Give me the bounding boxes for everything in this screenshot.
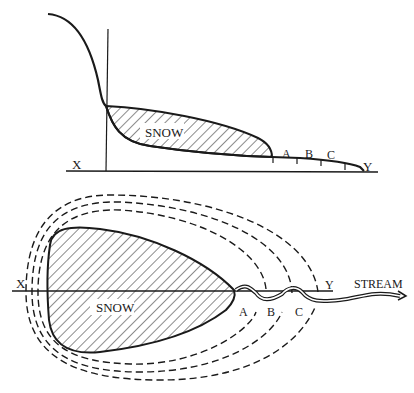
plan-view: SNOW X Y A B C STREAM [12, 195, 406, 380]
section-wall-line [106, 29, 108, 171]
snow-patch-plan [48, 227, 235, 352]
snow-label-plan: SNOW [96, 300, 135, 315]
snow-label: SNOW [145, 125, 184, 140]
label-x-plan: X [16, 276, 26, 291]
section-view: SNOW X Y A B C [48, 14, 378, 174]
label-y-plan: Y [325, 278, 334, 292]
label-c-plan: C [295, 305, 303, 319]
label-y-section: Y [363, 159, 373, 174]
label-a-plan: A [239, 305, 248, 319]
label-c-section: C [327, 148, 335, 162]
section-baseline [66, 171, 378, 172]
label-stream: STREAM [354, 277, 403, 291]
snow-drift-section [106, 106, 272, 157]
label-b-section: B [305, 147, 313, 161]
snow-melt-diagram: SNOW X Y A B C SNOW X Y A B C STREAM [0, 0, 414, 393]
label-x-section: X [72, 157, 82, 172]
label-b-plan: B [267, 305, 275, 319]
label-a-section: A [282, 147, 291, 161]
